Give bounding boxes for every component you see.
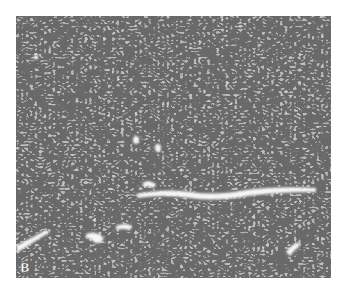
tissue-texture [16, 16, 331, 278]
panel-label: B [20, 261, 30, 274]
micrograph-panel: B [16, 16, 331, 278]
